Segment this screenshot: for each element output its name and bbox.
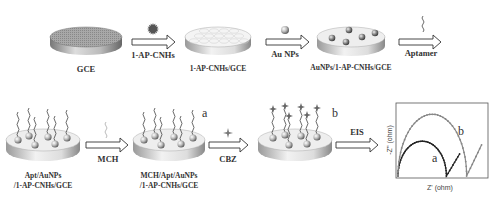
series-b-label: b <box>458 124 464 138</box>
x-axis-label: Z' (ohm) <box>427 184 453 192</box>
y-axis-label: -Z'' (ohm) <box>386 125 394 155</box>
cnh-electrode <box>185 27 251 55</box>
star-icon <box>223 128 233 138</box>
series-a-label: a <box>432 151 438 165</box>
arrow-cbz <box>209 138 248 152</box>
arrow-eis <box>336 138 378 152</box>
arrow-aptamer-label: Aptamer <box>405 48 438 58</box>
arrow-aunps-label: Au NPs <box>271 49 299 59</box>
aunps-label: AuNPs/1-AP-CNHs/GCE <box>310 63 391 72</box>
arrow-mch-label: MCH <box>98 154 119 164</box>
plot-frame <box>396 103 488 178</box>
gce-label: GCE <box>77 64 96 74</box>
sea-urchin-icon <box>147 23 159 35</box>
mch-label-line1: MCH/Apt/AuNPs <box>140 171 197 180</box>
mch-electrode <box>133 108 205 161</box>
mch-label-line2: /1-AP-CNHs/GCE <box>139 181 199 190</box>
cnh-label: 1-AP-CNHs/GCE <box>190 64 247 73</box>
arrow-aptamer <box>399 35 441 49</box>
aunps-electrode <box>317 27 385 56</box>
apt-label-line1: Apt/AuNPs <box>25 171 62 180</box>
gce-electrode <box>50 27 122 55</box>
cbz-electrode <box>258 102 332 161</box>
nyquist-plot: Z' (ohm) -Z'' (ohm) a b <box>386 103 488 192</box>
arrow-aunps <box>266 35 309 49</box>
arrow-cnhs-label: 1-AP-CNHs <box>131 50 175 60</box>
tag-b: b <box>332 106 338 120</box>
squiggle-icon <box>422 16 424 32</box>
tag-a: a <box>202 106 208 120</box>
arrow-eis-label: EIS <box>350 127 364 137</box>
arrow-cnhs <box>132 35 175 49</box>
apt-electrode <box>6 108 80 161</box>
arrow-cbz-label: CBZ <box>219 154 237 164</box>
apt-label-line2: /1-AP-CNHs/GCE <box>13 181 73 190</box>
fabrication-scheme: GCE 1-AP-CNHs 1-AP-CNHs/GCE Au NPs AuNPs… <box>0 0 496 199</box>
squiggle-icon <box>105 122 107 138</box>
arrow-mch <box>86 138 128 152</box>
sphere-icon <box>281 26 289 34</box>
